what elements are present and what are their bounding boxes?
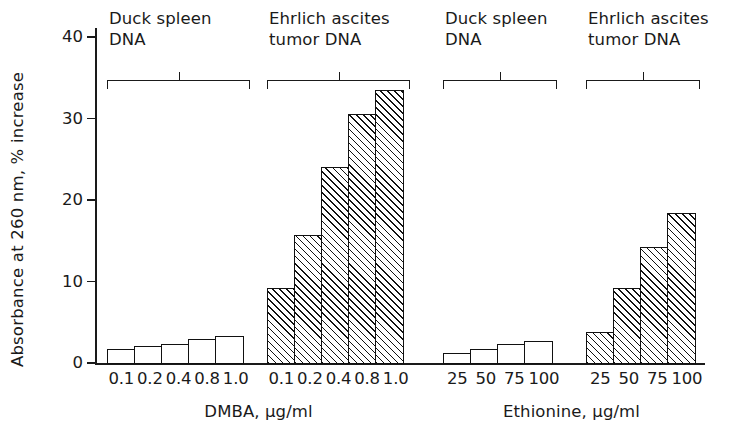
x-axis-tick-label: 75 xyxy=(500,371,529,388)
y-axis-tick xyxy=(87,199,96,201)
bar xyxy=(640,247,669,364)
x-axis-tick-label: 0.2 xyxy=(136,371,165,388)
y-axis-tick-label: 20 xyxy=(49,192,83,209)
y-axis-title: Absorbance at 260 nm, % increase xyxy=(0,0,34,439)
x-axis-tick-label: 0.4 xyxy=(324,371,353,388)
figure-bar-chart: Absorbance at 260 nm, % increase 0102030… xyxy=(0,0,738,439)
bar-group xyxy=(443,0,557,364)
x-axis-tick-labels: 0.10.20.40.81.0 xyxy=(267,371,410,388)
x-axis-tick-label: 0.2 xyxy=(296,371,325,388)
x-axis-tick-label: 0.8 xyxy=(193,371,222,388)
bar xyxy=(267,288,296,364)
y-axis-tick xyxy=(87,118,96,120)
x-axis-tick-label: 0.1 xyxy=(107,371,136,388)
x-axis-tick-labels: 255075100 xyxy=(443,371,557,388)
bar xyxy=(294,235,323,364)
bar xyxy=(107,349,136,364)
x-axis-title: DMBA, µg/ml xyxy=(107,402,410,421)
y-axis-tick-label: 10 xyxy=(49,273,83,290)
y-axis-tick-label: 30 xyxy=(49,110,83,127)
bar xyxy=(524,341,553,364)
bar xyxy=(348,114,377,364)
x-axis-tick-label: 1.0 xyxy=(381,371,410,388)
x-axis-tick-labels: 0.10.20.40.81.0 xyxy=(107,371,250,388)
x-axis-tick-label: 50 xyxy=(615,371,644,388)
y-axis-line xyxy=(95,28,97,365)
bar-group xyxy=(107,0,250,364)
bar xyxy=(321,167,350,364)
x-axis-tick-labels: 255075100 xyxy=(586,371,700,388)
x-axis-tick-label: 75 xyxy=(643,371,672,388)
bar xyxy=(134,346,163,364)
y-axis-tick xyxy=(87,281,96,283)
bar xyxy=(470,349,499,364)
bar xyxy=(443,353,472,364)
x-axis-tick-label: 25 xyxy=(443,371,472,388)
bar xyxy=(667,213,696,364)
bar xyxy=(188,339,217,364)
x-axis-tick-label: 100 xyxy=(529,371,558,388)
y-axis-tick xyxy=(87,36,96,38)
bar xyxy=(215,336,244,364)
bar xyxy=(586,332,615,364)
x-axis-tick-label: 25 xyxy=(586,371,615,388)
x-axis-tick-label: 50 xyxy=(472,371,501,388)
bar-group xyxy=(586,0,700,364)
x-axis-tick-label: 0.8 xyxy=(353,371,382,388)
bar xyxy=(161,344,190,364)
bar xyxy=(375,90,404,364)
bar-group xyxy=(267,0,410,364)
y-axis-tick-label: 0 xyxy=(49,355,83,372)
x-axis-tick-label: 0.1 xyxy=(267,371,296,388)
x-axis-tick-label: 100 xyxy=(672,371,701,388)
x-axis-tick-label: 1.0 xyxy=(221,371,250,388)
y-axis-tick-label: 40 xyxy=(49,29,83,46)
bar xyxy=(497,344,526,364)
x-axis-title: Ethionine, µg/ml xyxy=(443,402,700,421)
x-axis-tick-label: 0.4 xyxy=(164,371,193,388)
bar xyxy=(613,288,642,364)
